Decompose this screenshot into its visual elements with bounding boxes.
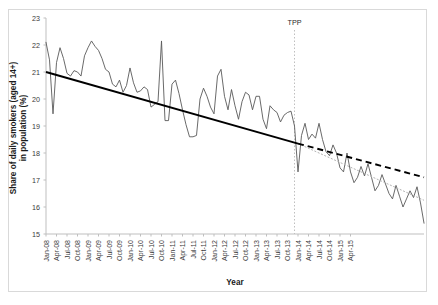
x-tick-label: Jan-12 — [211, 240, 218, 262]
x-tick-label: Oct-14 — [326, 240, 333, 261]
x-tick-label: Jul-12 — [232, 240, 239, 259]
x-axis-tick-labels: Jan-08Apr-08Jul-08Oct-08Jan-09Apr-09Jul-… — [43, 234, 356, 261]
x-tick-label: Jul-08 — [64, 240, 71, 259]
y-tick-label: 21 — [32, 68, 40, 77]
x-tick-label: Oct-09 — [116, 240, 123, 261]
smoker-share-data-series — [46, 41, 424, 223]
y-tick-label: 19 — [32, 122, 40, 131]
y-tick-label: 17 — [32, 176, 40, 185]
y-tick-label: 18 — [32, 149, 40, 158]
x-tick-label: Jul-11 — [190, 240, 197, 259]
y-axis-title-line2: in population (%) — [19, 95, 28, 162]
y-axis-title-line1: Share of daily smokers (aged 14+) — [9, 61, 18, 194]
x-tick-label: Apr-11 — [179, 240, 187, 261]
x-tick-label: Jan-15 — [337, 240, 344, 262]
pre-tpp-trend-line — [46, 72, 298, 144]
x-tick-label: Jan-10 — [127, 240, 134, 262]
x-tick-label: Apr-15 — [347, 240, 355, 261]
y-tick-label: 20 — [32, 95, 40, 104]
x-tick-label: Oct-13 — [284, 240, 291, 261]
x-tick-label: Jul-10 — [148, 240, 155, 259]
x-tick-label: Jan-09 — [85, 240, 92, 262]
x-tick-label: Apr-10 — [137, 240, 145, 261]
y-tick-label: 15 — [32, 230, 40, 239]
x-tick-label: Jan-14 — [295, 240, 302, 262]
y-tick-label: 23 — [32, 14, 40, 23]
x-tick-label: Jan-13 — [253, 240, 260, 262]
smoking-prevalence-line-chart: Share of daily smokers (aged 14+) in pop… — [0, 0, 438, 305]
tpp-marker-label: TPP — [288, 18, 302, 27]
y-axis-title: Share of daily smokers (aged 14+) in pop… — [9, 61, 28, 194]
x-tick-label: Jul-13 — [274, 240, 281, 259]
x-axis-title: Year — [226, 278, 244, 287]
y-tick-label: 22 — [32, 41, 40, 50]
x-tick-label: Jan-08 — [43, 240, 50, 262]
x-tick-label: Oct-10 — [158, 240, 165, 261]
x-tick-label: Apr-14 — [305, 240, 313, 261]
x-tick-label: Apr-09 — [95, 240, 103, 261]
x-tick-label: Apr-13 — [263, 240, 271, 261]
y-axis-tick-labels: 151617181920212223 — [32, 14, 46, 239]
x-tick-label: Jul-14 — [316, 240, 323, 259]
x-tick-label: Oct-11 — [200, 240, 207, 261]
x-tick-label: Oct-12 — [242, 240, 249, 261]
x-tick-label: Jul-09 — [106, 240, 113, 259]
x-tick-label: Oct-08 — [74, 240, 81, 261]
x-tick-label: Apr-12 — [221, 240, 229, 261]
y-tick-label: 16 — [32, 203, 40, 212]
x-tick-label: Jan-11 — [169, 240, 176, 261]
x-tick-label: Apr-08 — [53, 240, 61, 261]
